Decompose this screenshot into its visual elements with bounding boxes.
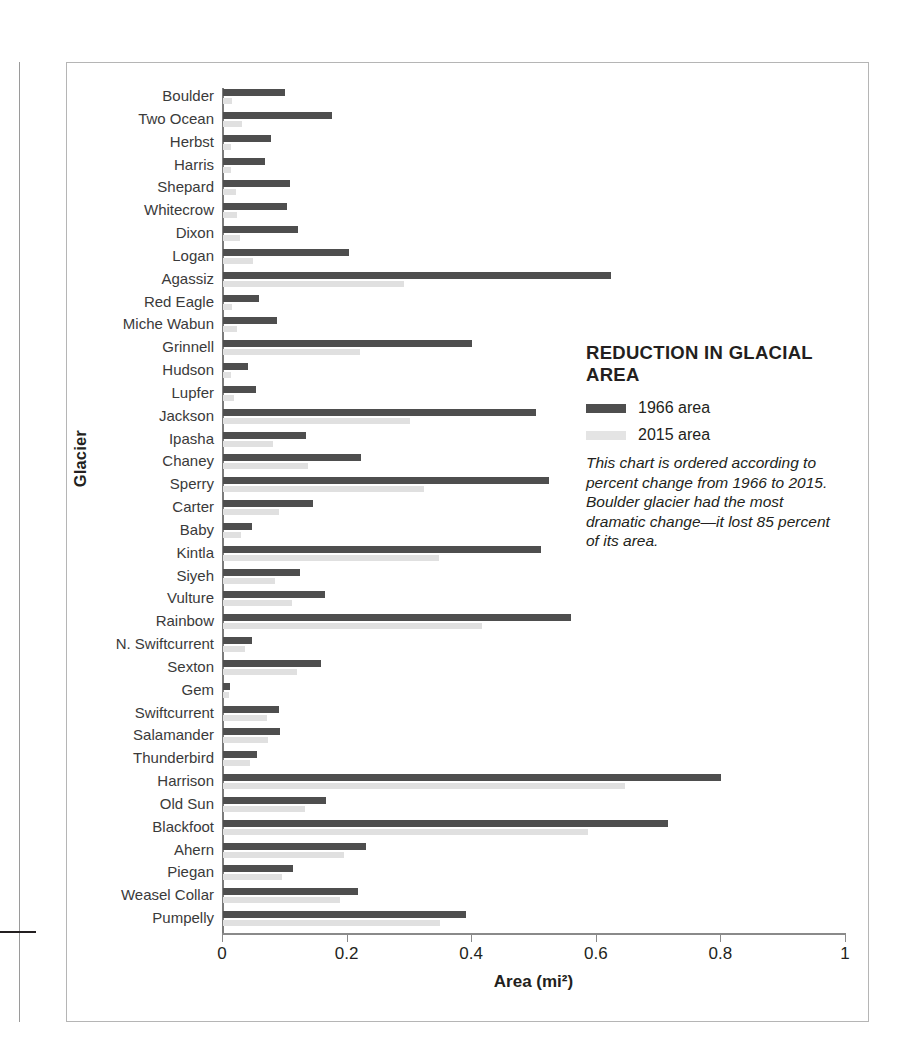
chart-row: Harris [222, 157, 845, 180]
y-axis-tick-label: Whitecrow [0, 202, 214, 217]
x-axis-tick [347, 933, 348, 942]
bar-1966 [223, 820, 668, 827]
bar-2015 [223, 304, 232, 310]
y-axis-tick-label: Hudson [0, 362, 214, 377]
bar-2015 [223, 783, 625, 789]
y-axis-tick-label: Baby [0, 522, 214, 537]
legend-label-2015: 2015 area [638, 426, 710, 444]
bar-2015 [223, 144, 231, 150]
y-axis-tick-label: Boulder [0, 88, 214, 103]
chart-row: Siyeh [222, 568, 845, 591]
bar-1966 [223, 865, 293, 872]
bar-2015 [223, 395, 234, 401]
chart-row: Boulder [222, 88, 845, 111]
y-axis-tick-label: Thunderbird [0, 750, 214, 765]
bar-1966 [223, 523, 252, 530]
bar-1966 [223, 89, 285, 96]
bar-1966 [223, 569, 300, 576]
legend-item-2015: 2015 area [586, 426, 836, 444]
bar-2015 [223, 806, 305, 812]
bar-2015 [223, 692, 229, 698]
legend-panel: REDUCTION IN GLACIAL AREA 1966 area 2015… [586, 342, 836, 551]
bar-2015 [223, 121, 242, 127]
bar-1966 [223, 477, 549, 484]
bar-1966 [223, 454, 361, 461]
bar-2015 [223, 326, 237, 332]
x-axis-tick [596, 933, 597, 942]
chart-row: Pumpelly [222, 910, 845, 933]
bar-1966 [223, 911, 466, 918]
chart-row: Thunderbird [222, 750, 845, 773]
y-axis-tick-label: Herbst [0, 134, 214, 149]
bar-2015 [223, 737, 268, 743]
y-axis-tick-label: Carter [0, 499, 214, 514]
bar-1966 [223, 249, 349, 256]
chart-row: Sexton [222, 659, 845, 682]
bar-2015 [223, 212, 237, 218]
page-edge-rule-horizontal [0, 931, 36, 933]
x-axis-title: Area (mi²) [222, 972, 845, 992]
bar-1966 [223, 386, 256, 393]
bar-2015 [223, 852, 344, 858]
bar-1966 [223, 683, 230, 690]
bar-2015 [223, 578, 275, 584]
bar-1966 [223, 500, 313, 507]
x-axis-tick [720, 933, 721, 942]
bar-2015 [223, 623, 482, 629]
chart-row: Agassiz [222, 271, 845, 294]
bar-1966 [223, 637, 252, 644]
chart-row: Piegan [222, 864, 845, 887]
y-axis-tick-label: Ipasha [0, 431, 214, 446]
x-axis-tick-label: 0.8 [709, 944, 733, 964]
bar-1966 [223, 409, 536, 416]
x-axis-tick-label: 1 [840, 944, 849, 964]
chart-row: Whitecrow [222, 202, 845, 225]
chart-row: Harrison [222, 773, 845, 796]
bar-1966 [223, 340, 472, 347]
bar-2015 [223, 486, 424, 492]
bar-1966 [223, 203, 287, 210]
bar-2015 [223, 235, 240, 241]
chart-row: Vulture [222, 590, 845, 613]
chart-row: Weasel Collar [222, 887, 845, 910]
bar-1966 [223, 843, 366, 850]
bar-1966 [223, 614, 571, 621]
x-axis-tick [471, 933, 472, 942]
bar-2015 [223, 669, 297, 675]
bar-2015 [223, 258, 253, 264]
y-axis-tick-label: Miche Wabun [0, 316, 214, 331]
chart-row: N. Swiftcurrent [222, 636, 845, 659]
y-axis-tick-label: Chaney [0, 453, 214, 468]
y-axis-tick-label: Jackson [0, 408, 214, 423]
y-axis-tick-label: Agassiz [0, 271, 214, 286]
chart-row: Old Sun [222, 796, 845, 819]
bar-2015 [223, 509, 279, 515]
bar-1966 [223, 272, 611, 279]
chart-row: Rainbow [222, 613, 845, 636]
bar-1966 [223, 226, 298, 233]
y-axis-tick-label: Pumpelly [0, 910, 214, 925]
y-axis-tick-label: Gem [0, 682, 214, 697]
x-axis-tick [845, 933, 846, 942]
x-axis-tick [222, 933, 223, 942]
bar-2015 [223, 349, 360, 355]
chart-row: Gem [222, 682, 845, 705]
chart-row: Miche Wabun [222, 316, 845, 339]
chart-row: Two Ocean [222, 111, 845, 134]
bar-1966 [223, 363, 248, 370]
x-axis-tick-label: 0.2 [335, 944, 359, 964]
bar-2015 [223, 441, 273, 447]
light-swatch-icon [586, 431, 626, 440]
bar-2015 [223, 418, 410, 424]
bar-2015 [223, 372, 231, 378]
y-axis-tick-label: Kintla [0, 545, 214, 560]
chart-row: Herbst [222, 134, 845, 157]
bar-2015 [223, 532, 241, 538]
y-axis-tick-label: Shepard [0, 179, 214, 194]
bar-1966 [223, 797, 326, 804]
chart-row: Salamander [222, 727, 845, 750]
y-axis-tick-label: Two Ocean [0, 111, 214, 126]
bar-1966 [223, 546, 541, 553]
x-axis-tick-label: 0.4 [459, 944, 483, 964]
y-axis-tick-label: Salamander [0, 727, 214, 742]
